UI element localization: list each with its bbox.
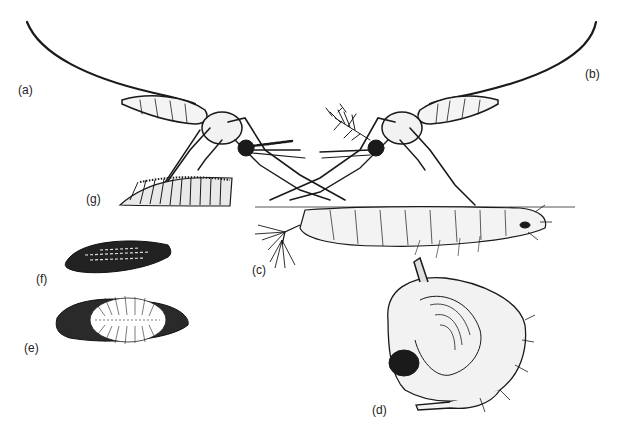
label-f: (f) <box>36 272 47 286</box>
label-b: (b) <box>585 67 600 81</box>
egg-e <box>56 296 188 344</box>
adult-mosquito-b <box>270 22 596 205</box>
larva-c <box>255 205 552 268</box>
egg-f <box>65 241 171 273</box>
pupa-d <box>388 258 535 412</box>
mosquito-life-cycle-figure <box>0 0 618 443</box>
label-c: (c) <box>252 263 266 277</box>
label-d: (d) <box>372 403 387 417</box>
label-a: (a) <box>18 83 33 97</box>
label-e: (e) <box>24 341 39 355</box>
egg-raft-g <box>120 177 232 206</box>
label-g: (g) <box>86 192 101 206</box>
